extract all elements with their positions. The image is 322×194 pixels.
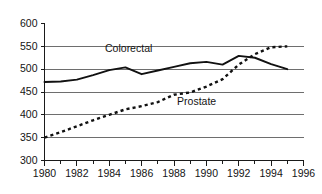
tick-marks-group <box>41 24 304 166</box>
series-labels-group: ColorectalProstate <box>105 42 216 107</box>
x-tick-label-1986: 1986 <box>130 167 154 179</box>
x-tick-label-1984: 1984 <box>98 167 122 179</box>
series-label-colorectal: Colorectal <box>105 42 152 54</box>
y-axis-labels-group: 300350400450500550600 <box>20 17 38 166</box>
y-tick-label-300: 300 <box>20 154 38 166</box>
series-label-prostate: Prostate <box>177 95 216 107</box>
x-axis-labels-group: 198019821984198619881990199219941996 <box>33 167 316 179</box>
y-tick-label-600: 600 <box>20 17 38 29</box>
chart-canvas: 300350400450500550600 198019821984198619… <box>0 0 322 194</box>
x-tick-label-1994: 1994 <box>259 167 283 179</box>
y-tick-label-450: 450 <box>20 85 38 97</box>
x-tick-label-1988: 1988 <box>162 167 186 179</box>
x-tick-label-1996: 1996 <box>292 167 316 179</box>
line-chart: 300350400450500550600 198019821984198619… <box>0 0 322 194</box>
x-tick-label-1990: 1990 <box>195 167 219 179</box>
y-tick-label-550: 550 <box>20 40 38 52</box>
gridlines-group <box>45 46 304 137</box>
y-tick-label-500: 500 <box>20 62 38 74</box>
x-tick-label-1992: 1992 <box>227 167 251 179</box>
x-tick-label-1980: 1980 <box>33 167 57 179</box>
y-tick-label-400: 400 <box>20 108 38 120</box>
x-tick-label-1982: 1982 <box>65 167 89 179</box>
y-tick-label-350: 350 <box>20 131 38 143</box>
